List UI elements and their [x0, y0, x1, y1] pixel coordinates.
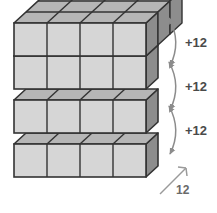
- brace-label-1: +12: [185, 35, 207, 50]
- brace-label-2: +12: [185, 79, 207, 94]
- cube-layer-bottom: [14, 133, 158, 177]
- brace-label-3: +12: [185, 123, 207, 138]
- cube-layer-3: [14, 89, 158, 133]
- cube-stack-diagram: +12 +12 +12 12: [0, 0, 217, 213]
- dimension-label: 12: [176, 183, 190, 197]
